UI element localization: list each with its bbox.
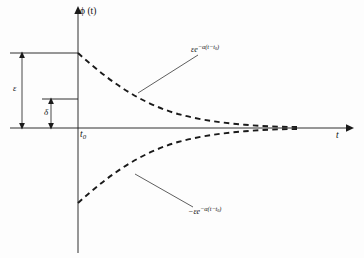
- epsilon-measure-arrowhead-down: [19, 123, 25, 130]
- upper-curve-label-exponent: −α(t−t: [198, 43, 215, 50]
- x-axis-label: t: [336, 131, 339, 141]
- lower-curve-label-exponent: −α(t−t: [200, 205, 217, 212]
- y-axis-label-text: ϕ (t): [80, 6, 96, 16]
- lower-curve-label-exponent-close: ): [219, 205, 221, 212]
- epsilon-measure-arrowhead-up: [19, 52, 25, 59]
- origin-label-t0: t0: [80, 130, 86, 140]
- upper-envelope-curve: [78, 53, 297, 127]
- x-axis-arrowhead: [346, 124, 354, 132]
- delta-measure-arrowhead-up: [48, 98, 54, 105]
- epsilon-label: ε: [13, 84, 16, 93]
- lower-curve-equation-label: −εe−α(t−t0): [188, 206, 221, 216]
- x-axis-label-text: t: [336, 130, 339, 140]
- lower-envelope-curve: [78, 129, 297, 203]
- lower-curve-label-prefix: −εe: [188, 207, 200, 216]
- upper-curve-label-exponent-close: ): [217, 43, 219, 50]
- upper-curve-leader-line: [138, 55, 198, 93]
- y-axis-label: ϕ (t): [80, 7, 96, 17]
- upper-curve-label-prefix: εe: [191, 45, 198, 54]
- delta-measure-arrowhead-down: [48, 123, 54, 130]
- delta-label-text: δ: [44, 107, 48, 117]
- plot-canvas: [0, 0, 364, 258]
- origin-label-subscript: 0: [83, 133, 86, 140]
- epsilon-label-text: ε: [13, 83, 16, 93]
- upper-curve-equation-label: εe−α(t−t0): [191, 44, 219, 54]
- lower-curve-leader-line: [135, 174, 193, 207]
- delta-label: δ: [44, 108, 48, 117]
- exponential-envelope-figure: ϕ (t) t t0 ε δ εe−α(t−t0) −εe−α(t−t0): [0, 0, 364, 258]
